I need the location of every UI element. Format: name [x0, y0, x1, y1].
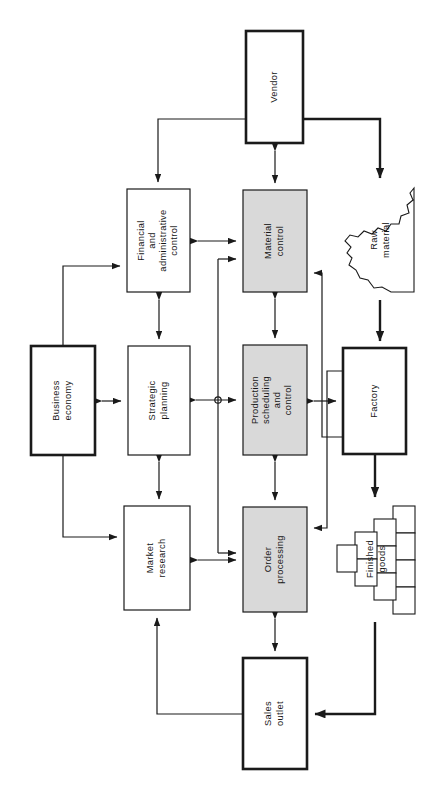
node-market-label-1: Market	[145, 543, 155, 574]
node-order-label-1: Order	[263, 547, 273, 573]
node-factory[interactable]: Factory	[343, 348, 406, 454]
node-finished-goods[interactable]: Finished goods	[337, 506, 415, 614]
node-vendor[interactable]: Vendor	[246, 31, 303, 143]
edge-layer	[63, 119, 380, 714]
edge-vendor-raw	[303, 119, 380, 178]
node-business-label-1: Business	[51, 380, 61, 421]
node-raw-material-label-2: material	[381, 222, 391, 258]
edge-finished-sales	[315, 622, 375, 714]
edge-business-financial	[63, 266, 120, 346]
node-market-label-2: research	[157, 539, 167, 578]
node-raw-material-label-1: Raw	[369, 230, 379, 250]
node-market-research[interactable]: Market research	[124, 506, 190, 610]
node-strategic-label-1: Strategic	[147, 381, 157, 421]
node-production-scheduling[interactable]: Production scheduling and control	[243, 345, 307, 455]
node-material-label-1: Material	[263, 223, 273, 259]
node-material-label-2: control	[275, 226, 285, 256]
edge-factory-order	[314, 371, 343, 528]
edge-factory-material	[314, 273, 343, 437]
node-production-label-3: and	[272, 392, 282, 409]
edge-vendor-financial	[158, 119, 246, 182]
node-finished-label-1: Finished	[365, 540, 375, 578]
node-raw-material[interactable]: Raw material	[345, 188, 414, 292]
node-production-label-2: scheduling	[261, 376, 271, 424]
node-finished-label-2: goods	[377, 545, 387, 572]
node-sales-label-1: Sales	[263, 701, 273, 726]
edge-sales-market	[157, 618, 243, 714]
node-business-label-2: economy	[63, 380, 73, 420]
node-sales-label-2: outlet	[275, 701, 285, 726]
node-production-label-1: Production	[250, 376, 260, 424]
node-order-processing[interactable]: Order processing	[243, 507, 307, 612]
node-business-economy[interactable]: Business economy	[31, 346, 95, 455]
node-financial-label-2: and	[147, 232, 157, 249]
node-sales-outlet[interactable]: Sales outlet	[243, 658, 307, 769]
node-strategic-planning[interactable]: Strategic planning	[128, 346, 190, 455]
node-financial-control[interactable]: Financial and administrative control	[127, 189, 190, 292]
node-vendor-label: Vendor	[269, 71, 279, 103]
node-financial-label-3: administrative	[158, 209, 168, 271]
node-factory-label: Factory	[369, 384, 379, 417]
node-financial-label-4: control	[169, 225, 179, 255]
diagram-canvas: Vendor Raw material Financial and admini…	[0, 0, 430, 802]
node-financial-label-1: Financial	[136, 220, 146, 260]
node-strategic-label-2: planning	[159, 382, 169, 420]
node-production-label-4: control	[283, 385, 293, 415]
node-order-label-2: processing	[275, 535, 285, 583]
node-material-control[interactable]: Material control	[243, 190, 307, 292]
edge-business-market	[63, 455, 117, 537]
flow-diagram-svg: Vendor Raw material Financial and admini…	[0, 0, 430, 802]
